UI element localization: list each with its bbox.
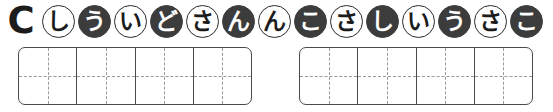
kana-glyph: し [43, 6, 74, 37]
kana-glyph: ん [223, 6, 254, 37]
horizontal-guide-line [475, 76, 532, 77]
horizontal-guide-line [77, 76, 134, 77]
kana-chip-3[interactable]: い [114, 5, 147, 38]
horizontal-guide-line [417, 76, 474, 77]
kana-glyph: さ [475, 6, 506, 37]
kana-glyph: う [79, 6, 110, 37]
section-letter: C [3, 0, 39, 43]
answer-grid-right [299, 47, 533, 105]
kana-glyph: ど [151, 6, 182, 37]
horizontal-guide-line [300, 76, 357, 77]
answer-cell[interactable] [77, 48, 135, 104]
answer-cell[interactable] [475, 48, 532, 104]
kana-chip-2[interactable]: う [78, 5, 111, 38]
kana-glyph: う [439, 6, 470, 37]
kana-glyph: さ [187, 6, 218, 37]
kana-chip-10[interactable]: し [366, 5, 399, 38]
kana-chip-13[interactable]: さ [474, 5, 507, 38]
answer-cell[interactable] [194, 48, 251, 104]
kana-glyph: い [115, 6, 146, 37]
worksheet-page: C しういどさんんこさしいうさこ [0, 0, 553, 112]
answer-cell[interactable] [136, 48, 194, 104]
answer-cell[interactable] [19, 48, 77, 104]
horizontal-guide-line [358, 76, 415, 77]
kana-glyph: こ [511, 6, 542, 37]
answer-cell[interactable] [358, 48, 416, 104]
kana-glyph: い [403, 6, 434, 37]
answer-cell[interactable] [300, 48, 358, 104]
horizontal-guide-line [136, 76, 193, 77]
horizontal-guide-line [194, 76, 251, 77]
answer-cell[interactable] [417, 48, 475, 104]
kana-glyph: ん [259, 6, 290, 37]
kana-chip-1[interactable]: し [42, 5, 75, 38]
kana-chip-7[interactable]: ん [258, 5, 291, 38]
answer-grid-left [18, 47, 252, 105]
kana-chip-12[interactable]: う [438, 5, 471, 38]
kana-chip-5[interactable]: さ [186, 5, 219, 38]
kana-chip-14[interactable]: こ [510, 5, 543, 38]
kana-chip-8[interactable]: こ [294, 5, 327, 38]
kana-chip-4[interactable]: ど [150, 5, 183, 38]
kana-glyph: こ [295, 6, 326, 37]
kana-chip-6[interactable]: ん [222, 5, 255, 38]
horizontal-guide-line [19, 76, 76, 77]
kana-glyph: さ [331, 6, 362, 37]
kana-chip-11[interactable]: い [402, 5, 435, 38]
kana-chip-9[interactable]: さ [330, 5, 363, 38]
kana-glyph: し [367, 6, 398, 37]
kana-prompt-row: C しういどさんんこさしいうさこ [0, 0, 553, 44]
